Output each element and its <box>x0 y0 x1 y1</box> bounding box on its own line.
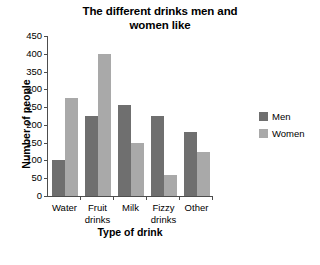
x-tick-mark <box>179 197 180 200</box>
x-tick-mark <box>113 197 114 200</box>
x-axis-line <box>47 196 213 197</box>
chart-title: The different drinks men and women like <box>40 4 280 32</box>
y-tick-label: 250 <box>9 102 47 112</box>
bar-men-4 <box>184 132 197 196</box>
y-tick-mark <box>44 107 47 108</box>
y-tick-label: 350 <box>9 67 47 77</box>
legend-swatch-icon <box>259 129 268 138</box>
y-axis-line <box>47 36 48 197</box>
y-tick-label: 50 <box>9 173 47 183</box>
legend-label: Women <box>272 129 305 139</box>
y-tick-label: 200 <box>9 120 47 130</box>
y-tick-label: 400 <box>9 49 47 59</box>
y-tick-mark <box>44 36 47 37</box>
x-tick-mark <box>80 197 81 200</box>
bar-men-3 <box>151 116 164 196</box>
y-tick-mark <box>44 89 47 90</box>
legend-swatch-icon <box>259 112 268 121</box>
y-tick-label: 0 <box>9 191 47 201</box>
bar-men-0 <box>52 160 65 196</box>
bar-women-1 <box>98 54 111 196</box>
bar-men-2 <box>118 105 131 196</box>
y-tick-mark <box>44 72 47 73</box>
legend: MenWomen <box>259 108 305 142</box>
y-tick-label: 450 <box>9 31 47 41</box>
y-tick-label: 150 <box>9 138 47 148</box>
legend-item-men: Men <box>259 108 305 125</box>
legend-label: Men <box>272 112 290 122</box>
x-axis-title: Type of drink <box>47 226 213 238</box>
bar-women-2 <box>131 143 144 196</box>
y-tick-mark <box>44 178 47 179</box>
bar-women-4 <box>197 152 210 196</box>
legend-item-women: Women <box>259 125 305 142</box>
x-tick-mark <box>212 197 213 200</box>
y-tick-mark <box>44 54 47 55</box>
bar-women-3 <box>164 175 177 196</box>
y-tick-mark <box>44 160 47 161</box>
y-tick-mark <box>44 125 47 126</box>
bar-chart: The different drinks men and women like … <box>0 0 320 265</box>
bar-women-0 <box>65 98 78 196</box>
bar-men-1 <box>85 116 98 196</box>
y-tick-mark <box>44 143 47 144</box>
y-tick-mark <box>44 196 47 197</box>
y-tick-label: 300 <box>9 85 47 95</box>
plot-area: 050100150200250300350400450 WaterFruit d… <box>47 36 212 197</box>
y-tick-label: 100 <box>9 156 47 166</box>
x-tick-mark <box>146 197 147 200</box>
x-category-label: Other <box>175 202 219 214</box>
